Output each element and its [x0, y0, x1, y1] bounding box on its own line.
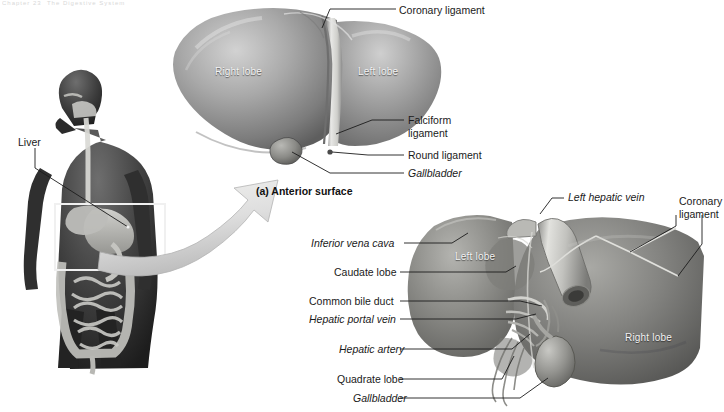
- label-b-coronary-ligament-line2: ligament: [679, 208, 719, 221]
- label-b-hepatic-artery: Hepatic artery: [339, 343, 404, 356]
- label-b-left-hepatic-vein: Left hepatic vein: [568, 191, 644, 204]
- label-a-round-ligament: Round ligament: [408, 149, 482, 162]
- label-b-gallbladder: Gallbladder: [353, 392, 407, 405]
- label-b-caudate-lobe: Caudate lobe: [334, 266, 396, 279]
- body-illustration: [24, 70, 165, 374]
- label-a-left-lobe: Left lobe: [358, 66, 398, 79]
- label-b-coronary-ligament-line1: Coronary: [679, 195, 722, 208]
- label-b-right-lobe: Right lobe: [625, 332, 672, 345]
- label-b-common-bile-duct: Common bile duct: [309, 295, 394, 308]
- label-a-coronary-ligament: Coronary ligament: [399, 4, 485, 17]
- label-b-hepatic-portal-vein: Hepatic portal vein: [309, 313, 396, 326]
- panel-a-caption: (a) Anterior surface: [256, 185, 352, 197]
- label-b-left-lobe: Left lobe: [455, 251, 495, 264]
- label-liver-body: Liver: [18, 136, 41, 149]
- panel-a-liver: [173, 8, 441, 164]
- figure-canvas: Chapter 23 The Digestive System: [0, 0, 724, 412]
- label-a-falciform-ligament-line1: Falciform: [408, 114, 451, 127]
- label-a-falciform-ligament-line2: ligament: [408, 127, 448, 140]
- label-a-gallbladder: Gallbladder: [408, 167, 462, 180]
- label-a-right-lobe: Right lobe: [215, 66, 262, 79]
- label-b-quadrate-lobe: Quadrate lobe: [337, 373, 404, 386]
- label-b-inferior-vena-cava: Inferior vena cava: [311, 237, 394, 250]
- panel-b-liver: [408, 215, 704, 406]
